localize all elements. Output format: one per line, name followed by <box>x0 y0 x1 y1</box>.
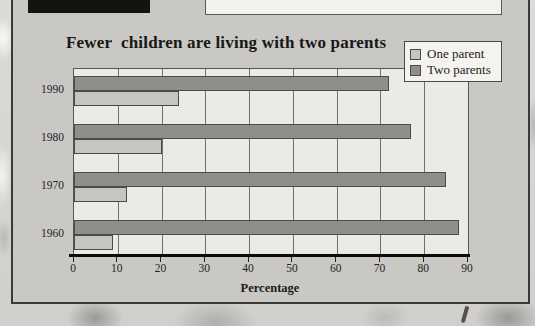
x-tick-label-10: 10 <box>102 262 132 274</box>
x-tick-label-90: 90 <box>452 262 482 274</box>
x-tick-label-30: 30 <box>189 262 219 274</box>
x-tick-label-80: 80 <box>408 262 438 274</box>
legend-row-two-parents: Two parents <box>410 62 496 78</box>
plot-area <box>73 68 469 257</box>
bar-one-parent-1970 <box>74 187 127 202</box>
bar-one-parent-1980 <box>74 139 162 154</box>
bar-two-parents-1990 <box>74 76 389 91</box>
white-header-box <box>205 0 502 15</box>
legend: One parentTwo parents <box>404 41 502 82</box>
black-header-box <box>28 0 150 13</box>
legend-label: One parent <box>427 46 484 62</box>
page: Fewer children are living with two paren… <box>0 0 535 326</box>
bar-one-parent-1960 <box>74 235 113 250</box>
x-tick-label-60: 60 <box>321 262 351 274</box>
year-label-1990: 1990 <box>24 83 64 95</box>
year-label-1960: 1960 <box>24 227 64 239</box>
bar-two-parents-1960 <box>74 220 459 235</box>
year-label-1970: 1970 <box>24 179 64 191</box>
x-tick-label-20: 20 <box>146 262 176 274</box>
legend-swatch-one-parent <box>410 49 421 60</box>
x-tick-label-50: 50 <box>277 262 307 274</box>
x-axis-line <box>69 254 470 257</box>
year-label-1980: 1980 <box>24 131 64 143</box>
legend-label: Two parents <box>427 62 491 78</box>
x-tick-label-40: 40 <box>233 262 263 274</box>
x-tick-label-70: 70 <box>364 262 394 274</box>
bar-two-parents-1980 <box>74 124 411 139</box>
bar-one-parent-1990 <box>74 91 179 106</box>
x-tick-label-0: 0 <box>58 262 88 274</box>
legend-row-one-parent: One parent <box>410 46 496 62</box>
chart-title: Fewer children are living with two paren… <box>66 33 386 53</box>
legend-swatch-two-parents <box>410 65 421 76</box>
x-axis-title: Percentage <box>73 281 467 296</box>
bar-two-parents-1970 <box>74 172 446 187</box>
